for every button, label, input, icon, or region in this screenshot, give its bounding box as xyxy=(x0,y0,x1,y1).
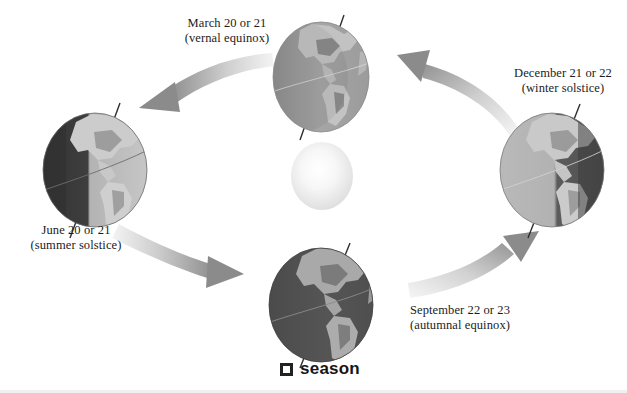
seasons-orbit-illustration xyxy=(0,0,627,393)
label-september-equinox: September 22 or 23 (autumnal equinox) xyxy=(390,303,530,333)
globe-december xyxy=(500,104,610,238)
label-december-date: December 21 or 22 xyxy=(498,66,627,81)
label-june-solstice: June 20 or 21 (summer solstice) xyxy=(6,223,146,253)
label-september-event: (autumnal equinox) xyxy=(390,318,530,333)
label-june-event: (summer solstice) xyxy=(6,238,146,253)
label-march-equinox: March 20 or 21 (vernal equinox) xyxy=(152,16,302,46)
globe-september xyxy=(269,243,378,368)
seasons-diagram-figure: March 20 or 21 (vernal equinox) December… xyxy=(0,0,627,393)
arrow-september-to-december xyxy=(408,231,539,298)
label-june-date: June 20 or 21 xyxy=(6,223,146,238)
arrow-march-to-june xyxy=(139,53,274,112)
globe-june xyxy=(30,103,148,238)
label-march-event: (vernal equinox) xyxy=(152,31,302,46)
label-december-event: (winter solstice) xyxy=(498,81,627,96)
label-december-solstice: December 21 or 22 (winter solstice) xyxy=(498,66,627,96)
sun xyxy=(291,142,353,210)
caption-text: season xyxy=(300,359,360,379)
square-bullet-icon xyxy=(280,363,293,376)
figure-caption: season xyxy=(240,359,400,379)
label-march-date: March 20 or 21 xyxy=(152,16,302,31)
label-september-date: September 22 or 23 xyxy=(390,303,530,318)
